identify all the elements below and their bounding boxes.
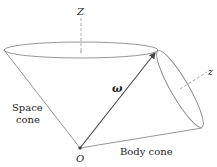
body-axis-line bbox=[180, 72, 207, 89]
body-axis-label: z bbox=[207, 67, 213, 77]
origin-point bbox=[78, 146, 81, 149]
angular-velocity-label: ω bbox=[112, 82, 123, 95]
space-cone-left-edge bbox=[4, 50, 80, 148]
body-cone-label: Body cone bbox=[120, 146, 173, 157]
origin-label: O bbox=[76, 153, 84, 164]
space-axis-label: Z bbox=[76, 6, 85, 17]
space-cone-label-line1: Space bbox=[12, 102, 43, 113]
cone-diagram: Z z ω Space cone Body cone O bbox=[0, 0, 217, 167]
space-axis-point bbox=[80, 51, 82, 53]
angular-velocity-arrow bbox=[80, 53, 155, 148]
body-cone-bottom-edge bbox=[80, 128, 202, 148]
space-cone-label-line2: cone bbox=[16, 114, 40, 125]
